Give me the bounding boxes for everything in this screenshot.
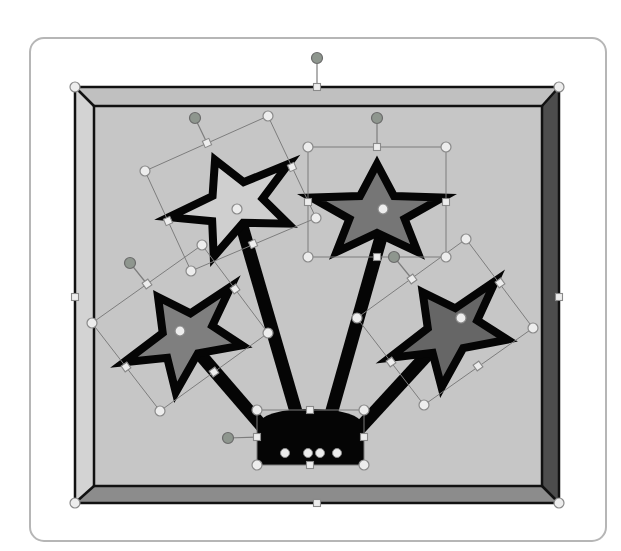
adjust-handle[interactable] xyxy=(456,313,466,323)
line-endpoint-handle[interactable] xyxy=(333,449,342,458)
corner-resize-handle[interactable] xyxy=(263,328,273,338)
side-resize-handle[interactable] xyxy=(307,462,314,469)
side-resize-handle[interactable] xyxy=(443,199,450,206)
corner-resize-handle[interactable] xyxy=(155,406,165,416)
corner-resize-handle[interactable] xyxy=(352,313,362,323)
corner-resize-handle[interactable] xyxy=(303,142,313,152)
rotate-handle-icon[interactable] xyxy=(389,252,400,263)
corner-resize-handle[interactable] xyxy=(554,498,564,508)
square-handle-icon[interactable] xyxy=(307,407,314,414)
corner-resize-handle[interactable] xyxy=(359,405,369,415)
side-resize-handle[interactable] xyxy=(307,407,314,414)
square-handle-icon[interactable] xyxy=(72,294,79,301)
rotate-handle-icon[interactable] xyxy=(125,258,136,269)
corner-resize-handle[interactable] xyxy=(441,252,451,262)
corner-resize-handle[interactable] xyxy=(441,142,451,152)
corner-resize-handle[interactable] xyxy=(461,234,471,244)
side-resize-handle[interactable] xyxy=(305,199,312,206)
square-handle-icon[interactable] xyxy=(314,500,321,507)
corner-resize-handle[interactable] xyxy=(554,82,564,92)
corner-resize-handle[interactable] xyxy=(70,498,80,508)
corner-resize-handle[interactable] xyxy=(70,82,80,92)
corner-resize-handle[interactable] xyxy=(311,213,321,223)
rotate-handle-icon[interactable] xyxy=(372,113,383,124)
side-resize-handle[interactable] xyxy=(254,434,261,441)
corner-resize-handle[interactable] xyxy=(186,266,196,276)
side-resize-handle[interactable] xyxy=(374,254,381,261)
corner-resize-handle[interactable] xyxy=(252,405,262,415)
corner-resize-handle[interactable] xyxy=(303,252,313,262)
corner-resize-handle[interactable] xyxy=(252,460,262,470)
adjust-handle[interactable] xyxy=(378,204,388,214)
rotate-handle-icon[interactable] xyxy=(312,53,323,64)
square-handle-icon[interactable] xyxy=(361,434,368,441)
corner-resize-handle[interactable] xyxy=(528,323,538,333)
square-handle-icon[interactable] xyxy=(556,294,563,301)
corner-resize-handle[interactable] xyxy=(359,460,369,470)
rotate-handle-icon[interactable] xyxy=(223,433,234,444)
square-handle-icon[interactable] xyxy=(305,199,312,206)
corner-resize-handle[interactable] xyxy=(419,400,429,410)
corner-resize-handle[interactable] xyxy=(140,166,150,176)
square-handle-icon[interactable] xyxy=(443,199,450,206)
adjust-handle[interactable] xyxy=(175,326,185,336)
square-handle-icon[interactable] xyxy=(314,84,321,91)
square-handle-icon[interactable] xyxy=(374,254,381,261)
line-endpoint-handle[interactable] xyxy=(281,449,290,458)
square-handle-icon[interactable] xyxy=(254,434,261,441)
line-endpoint-handle[interactable] xyxy=(316,449,325,458)
square-handle-icon[interactable] xyxy=(307,462,314,469)
side-resize-handle[interactable] xyxy=(361,434,368,441)
slide-canvas[interactable] xyxy=(0,0,621,551)
side-resize-handle[interactable] xyxy=(556,294,563,301)
side-resize-handle[interactable] xyxy=(374,144,381,151)
corner-resize-handle[interactable] xyxy=(197,240,207,250)
line-endpoint-handle[interactable] xyxy=(304,449,313,458)
corner-resize-handle[interactable] xyxy=(87,318,97,328)
side-resize-handle[interactable] xyxy=(72,294,79,301)
rotate-handle-icon[interactable] xyxy=(190,113,201,124)
side-resize-handle[interactable] xyxy=(314,500,321,507)
corner-resize-handle[interactable] xyxy=(263,111,273,121)
square-handle-icon[interactable] xyxy=(374,144,381,151)
side-resize-handle[interactable] xyxy=(314,84,321,91)
adjust-handle[interactable] xyxy=(232,204,242,214)
